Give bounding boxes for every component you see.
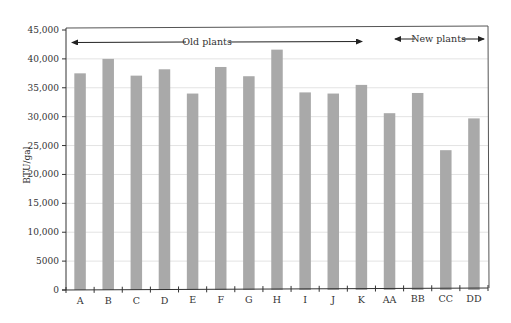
bar-E <box>187 94 199 290</box>
bar-CC <box>440 150 452 290</box>
x-tick-label: K <box>358 294 366 305</box>
bar-A <box>74 73 86 290</box>
x-tick-label: E <box>189 294 196 305</box>
bars <box>74 50 479 290</box>
x-tick-label: I <box>303 294 307 305</box>
x-tick-label: D <box>161 295 169 306</box>
x-tick-label: F <box>217 294 224 305</box>
bar-D <box>159 69 171 290</box>
x-tick-label: A <box>76 295 84 306</box>
y-tick-label: 25,000 <box>28 141 60 151</box>
x-tick-label: B <box>105 295 112 306</box>
x-tick-label: H <box>273 294 281 305</box>
y-tick-label: 15,000 <box>28 198 60 208</box>
bar-B <box>102 59 114 290</box>
x-tick-label: BB <box>411 293 425 304</box>
bar-G <box>243 76 255 290</box>
y-tick-label: 30,000 <box>28 112 60 122</box>
y-tick-label: 10,000 <box>28 227 60 237</box>
bar-chart: 0500010,00015,00020,00025,00030,00035,00… <box>0 0 511 323</box>
x-tick-label: J <box>330 294 335 305</box>
bar-AA <box>384 113 396 290</box>
y-tick-label: 5000 <box>36 256 59 266</box>
bar-DD <box>468 118 480 290</box>
y-tick-label: 40,000 <box>28 54 60 64</box>
y-axis-label: BTU/gal <box>22 146 32 183</box>
x-tick-label: AA <box>382 294 397 305</box>
bar-C <box>131 76 143 290</box>
annotations: Old plantsNew plants <box>72 33 484 47</box>
bar-J <box>328 94 340 290</box>
bar-BB <box>412 93 424 290</box>
x-tick-label: G <box>245 294 253 305</box>
y-tick-label: 20,000 <box>28 169 60 179</box>
y-axis: 0500010,00015,00020,00025,00030,00035,00… <box>28 25 67 295</box>
y-tick-label: 35,000 <box>28 83 60 93</box>
x-tick-label: DD <box>466 293 482 304</box>
new-plants-label: New plants <box>411 33 466 44</box>
bar-I <box>299 92 311 290</box>
bar-K <box>356 85 368 290</box>
y-tick-label: 45,000 <box>28 25 60 35</box>
bar-H <box>271 50 283 290</box>
x-tick-label: CC <box>439 293 454 304</box>
old-plants-label: Old plants <box>182 36 232 47</box>
y-tick-label: 0 <box>53 285 59 295</box>
x-tick-label: C <box>133 295 140 306</box>
bar-F <box>215 67 227 290</box>
